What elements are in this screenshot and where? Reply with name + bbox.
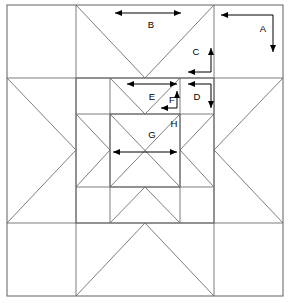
dimension-c-arrowhead-left <box>188 69 195 75</box>
dimension-b-arrowhead-left <box>115 10 122 16</box>
dimension-b-label: B <box>148 19 154 30</box>
dimension-e-arrowhead-left <box>127 81 134 87</box>
dimension-h-label: H <box>171 118 178 129</box>
middle-star-point-right <box>180 114 214 187</box>
dimension-f-label: F <box>169 94 175 105</box>
dimension-d-arrowhead-left <box>188 81 195 87</box>
dimension-marker-h: H <box>171 118 178 129</box>
middle-star-point-left <box>76 114 110 187</box>
dimension-d-label: D <box>194 91 201 102</box>
dimension-a-label: A <box>260 23 267 34</box>
outer-star-point-bottom <box>76 223 214 296</box>
dimension-c-arrowhead-up <box>208 48 214 55</box>
dimension-e-label: E <box>149 91 155 102</box>
quilt-diagram-canvas: A B C D E <box>0 0 289 303</box>
inner-block-group <box>110 114 180 187</box>
dimension-g-arrowhead-left <box>113 149 120 155</box>
dimension-f-arrowhead-left <box>161 105 168 111</box>
dimension-a-arrowhead-down <box>270 45 276 52</box>
quilt-block-diagram: A B C D E <box>0 0 289 303</box>
dimension-d-arrowhead-down <box>208 101 214 108</box>
dimension-a-arrowhead-left <box>221 12 228 18</box>
dimension-g-arrowhead-right <box>170 149 177 155</box>
dimension-marker-b: B <box>115 10 181 30</box>
dimension-g-label: G <box>148 129 155 140</box>
dimension-marker-d: D <box>188 81 214 108</box>
outer-star-point-right <box>214 78 283 223</box>
dimension-marker-a: A <box>221 12 276 52</box>
inner-star-diagonals <box>110 114 180 187</box>
dimension-c-line <box>188 48 211 72</box>
dimension-c-label: C <box>193 46 200 57</box>
middle-star-point-bottom <box>110 187 180 223</box>
outer-star-point-top <box>76 5 214 78</box>
dimension-b-arrowhead-right <box>174 10 181 16</box>
outer-star-point-left <box>7 78 76 223</box>
dimension-marker-c: C <box>188 46 214 75</box>
